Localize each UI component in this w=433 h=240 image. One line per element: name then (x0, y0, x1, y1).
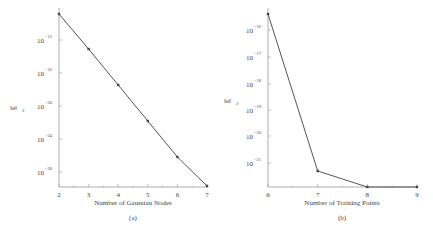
svg-text:−20: −20 (45, 100, 53, 105)
svg-text:6: 6 (176, 191, 180, 199)
svg-text:−24: −24 (45, 133, 53, 138)
figure: 10 −12 10 −16 10 −20 10 −24 10 −28 2 3 4… (0, 0, 433, 240)
chart-a-y-tick-labels: 10 −12 10 −16 10 −20 10 −24 10 −28 (37, 34, 53, 177)
svg-text:3: 3 (87, 191, 91, 199)
chart-b-caption: (b) (338, 214, 347, 222)
chart-a-x-axis-label: Number of Gaussian Nodes (94, 199, 172, 207)
svg-text:2: 2 (57, 191, 61, 199)
svg-text:10: 10 (246, 27, 254, 35)
svg-text:10: 10 (37, 70, 45, 78)
svg-text:5: 5 (146, 191, 150, 199)
svg-text:9: 9 (415, 191, 419, 199)
chart-b-series-line (268, 14, 417, 187)
svg-text:7: 7 (316, 191, 320, 199)
chart-b: 10 −16 10 −17 10 −18 10 −19 10 −20 10 −2… (224, 8, 419, 222)
chart-b-y-tick-labels: 10 −16 10 −17 10 −18 10 −19 10 −20 10 −2… (246, 24, 262, 168)
svg-text:7: 7 (205, 191, 209, 199)
svg-text:2: 2 (22, 108, 25, 113)
svg-text:10: 10 (246, 160, 254, 168)
svg-text:‖e‖: ‖e‖ (224, 97, 231, 105)
svg-text:2: 2 (236, 101, 239, 106)
svg-text:8: 8 (366, 191, 370, 199)
chart-b-x-tick-labels: 6 7 8 9 (266, 191, 419, 199)
svg-text:10: 10 (37, 37, 45, 45)
svg-text:−19: −19 (254, 104, 262, 109)
chart-a-x-tick-labels: 2 3 4 5 6 7 (57, 191, 209, 199)
chart-b-y-ticks (268, 30, 271, 163)
chart-a-y-axis-label: ‖e‖ 2 (10, 104, 25, 113)
svg-text:−17: −17 (254, 51, 262, 56)
svg-text:−16: −16 (45, 67, 53, 72)
chart-a-x-ticks (59, 184, 207, 187)
chart-a: 10 −12 10 −16 10 −20 10 −24 10 −28 2 3 4… (10, 8, 209, 222)
svg-text:6: 6 (266, 191, 270, 199)
svg-text:‖e‖: ‖e‖ (10, 104, 17, 112)
svg-text:10: 10 (37, 169, 45, 177)
chart-b-x-axis-label: Number of Training Points (304, 199, 380, 207)
svg-text:10: 10 (246, 133, 254, 141)
svg-text:−28: −28 (45, 166, 53, 171)
svg-text:−12: −12 (45, 34, 52, 39)
chart-a-series-line (59, 14, 207, 186)
chart-a-caption: (a) (129, 214, 137, 222)
svg-text:10: 10 (246, 81, 254, 89)
svg-text:−18: −18 (254, 78, 262, 83)
svg-text:10: 10 (37, 136, 45, 144)
chart-a-y-ticks (59, 40, 62, 172)
svg-text:4: 4 (116, 191, 120, 199)
svg-text:−20: −20 (254, 130, 262, 135)
svg-text:10: 10 (246, 54, 254, 62)
svg-text:10: 10 (246, 107, 254, 115)
svg-text:−21: −21 (254, 157, 261, 162)
chart-b-y-axis-label: ‖e‖ 2 (224, 97, 239, 106)
svg-text:10: 10 (37, 103, 45, 111)
chart-b-markers (267, 13, 418, 188)
svg-text:−16: −16 (254, 24, 262, 29)
